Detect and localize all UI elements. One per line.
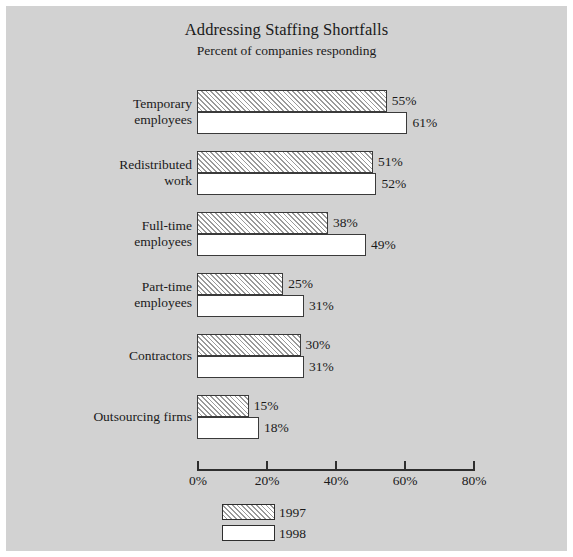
x-axis-tick bbox=[197, 461, 199, 471]
bar-value-label: 55% bbox=[387, 90, 417, 112]
bar-value-label: 15% bbox=[249, 395, 279, 417]
category-group: Temporary employees55%61% bbox=[6, 90, 567, 134]
bar-row: 38% bbox=[197, 212, 557, 234]
category-label: Full-time employees bbox=[22, 218, 192, 250]
legend-item-1997: 1997 bbox=[222, 503, 392, 522]
x-axis-tick bbox=[266, 461, 268, 471]
bar-value-label: 30% bbox=[301, 334, 331, 356]
bar-row: 30% bbox=[197, 334, 557, 356]
chart-figure: Addressing Staffing Shortfalls Percent o… bbox=[6, 6, 567, 551]
category-group: Full-time employees38%49% bbox=[6, 212, 567, 256]
x-axis-tick-label: 20% bbox=[237, 473, 297, 489]
category-group: Part-time employees25%31% bbox=[6, 273, 567, 317]
bar-value-label: 31% bbox=[304, 295, 334, 317]
x-axis-tick bbox=[335, 461, 337, 471]
bar-1998 bbox=[197, 356, 304, 378]
bar-row: 61% bbox=[197, 112, 557, 134]
bar-value-label: 25% bbox=[283, 273, 313, 295]
bar-row: 55% bbox=[197, 90, 557, 112]
category-group: Contractors30%31% bbox=[6, 334, 567, 378]
category-label: Outsourcing firms bbox=[22, 409, 192, 425]
bar-value-label: 51% bbox=[373, 151, 403, 173]
category-label: Temporary employees bbox=[22, 96, 192, 128]
bar-value-label: 38% bbox=[328, 212, 358, 234]
bar-value-label: 18% bbox=[259, 417, 289, 439]
x-axis-tick-label: 0% bbox=[168, 473, 228, 489]
legend-swatch bbox=[222, 525, 275, 541]
legend-label: 1997 bbox=[279, 503, 306, 522]
bar-value-label: 52% bbox=[376, 173, 406, 195]
bar-1997 bbox=[197, 334, 301, 356]
bar-row: 49% bbox=[197, 234, 557, 256]
bar-1998 bbox=[197, 173, 376, 195]
bar-1997 bbox=[197, 90, 387, 112]
x-axis-tick-label: 40% bbox=[306, 473, 366, 489]
bar-value-label: 61% bbox=[407, 112, 437, 134]
bar-1998 bbox=[197, 234, 366, 256]
bar-row: 52% bbox=[197, 173, 557, 195]
bar-1998 bbox=[197, 112, 407, 134]
bar-row: 31% bbox=[197, 356, 557, 378]
bar-value-label: 31% bbox=[304, 356, 334, 378]
category-label: Redistributed work bbox=[22, 157, 192, 189]
bar-row: 31% bbox=[197, 295, 557, 317]
x-axis-tick bbox=[473, 461, 475, 471]
bar-value-label: 49% bbox=[366, 234, 396, 256]
bar-row: 15% bbox=[197, 395, 557, 417]
bar-1997 bbox=[197, 212, 328, 234]
category-group: Redistributed work51%52% bbox=[6, 151, 567, 195]
bar-row: 25% bbox=[197, 273, 557, 295]
bar-1997 bbox=[197, 273, 283, 295]
bar-row: 18% bbox=[197, 417, 557, 439]
bar-row: 51% bbox=[197, 151, 557, 173]
x-axis-tick-label: 60% bbox=[375, 473, 435, 489]
bar-1997 bbox=[197, 395, 249, 417]
category-label: Contractors bbox=[22, 348, 192, 364]
bar-1998 bbox=[197, 295, 304, 317]
x-axis-tick-label: 80% bbox=[444, 473, 504, 489]
legend-item-1998: 1998 bbox=[222, 524, 392, 543]
x-axis-tick bbox=[404, 461, 406, 471]
x-axis: 0%20%40%60%80% bbox=[197, 461, 487, 491]
bar-1998 bbox=[197, 417, 259, 439]
chart-legend: 19971998 bbox=[222, 503, 392, 545]
legend-label: 1998 bbox=[279, 524, 306, 543]
category-group: Outsourcing firms15%18% bbox=[6, 395, 567, 439]
bar-1997 bbox=[197, 151, 373, 173]
category-label: Part-time employees bbox=[22, 279, 192, 311]
legend-swatch bbox=[222, 504, 275, 520]
